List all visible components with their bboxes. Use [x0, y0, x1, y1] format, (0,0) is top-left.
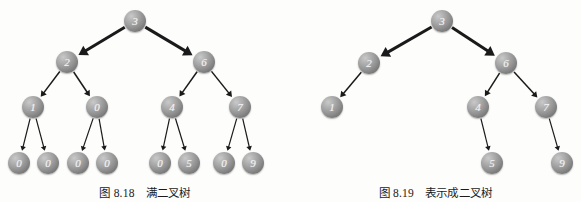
tree-canvas-as-binary-tree: 32614759	[290, 0, 581, 180]
tree-node-label: 9	[250, 157, 256, 169]
tree-node-0[interactable]: 0	[8, 152, 30, 174]
tree-edge	[179, 72, 197, 97]
tree-edge	[41, 72, 60, 97]
figure-full-binary-tree: 326104700000509 图 8.18 满二叉树	[0, 0, 290, 202]
tree-node-label: 0	[94, 101, 100, 113]
tree-edge	[36, 119, 46, 151]
tree-node-label: 4	[169, 101, 175, 113]
tree-node-5[interactable]: 5	[178, 152, 200, 174]
tree-node-label: 2	[366, 57, 372, 69]
tree-edge	[481, 119, 491, 151]
tree-edge	[381, 27, 432, 57]
tree-node-label: 4	[475, 101, 481, 113]
tree-node-0[interactable]: 0	[149, 152, 171, 174]
tree-node-label: 0	[157, 157, 163, 169]
tree-edge	[514, 72, 537, 98]
tree-node-label: 7	[543, 101, 549, 113]
tree-canvas-full-binary-tree: 326104700000509	[0, 0, 290, 180]
tree-edge	[20, 119, 30, 151]
tree-node-1[interactable]: 1	[321, 96, 343, 118]
tree-edge	[78, 27, 124, 55]
figure-caption-8-19: 图 8.19 表示成二叉树	[290, 184, 581, 200]
tree-node-label: 0	[16, 157, 22, 169]
tree-node-4[interactable]: 4	[467, 96, 489, 118]
tree-node-label: 1	[30, 101, 36, 113]
tree-edge	[212, 71, 232, 97]
tree-edge	[340, 72, 361, 97]
tree-node-label: 5	[489, 157, 495, 169]
tree-node-label: 3	[439, 15, 445, 27]
tree-node-label: 0	[104, 157, 110, 169]
tree-edge	[99, 119, 107, 151]
tree-node-3[interactable]: 3	[431, 10, 453, 32]
tree-node-6[interactable]: 6	[495, 52, 517, 74]
tree-edge	[243, 119, 252, 151]
tree-node-label: 1	[329, 101, 335, 113]
tree-node-4[interactable]: 4	[161, 96, 183, 118]
tree-node-1[interactable]: 1	[22, 96, 44, 118]
tree-node-0[interactable]: 0	[37, 152, 59, 174]
tree-node-3[interactable]: 3	[124, 10, 146, 32]
tree-node-label: 3	[132, 15, 138, 27]
tree-node-7[interactable]: 7	[535, 96, 557, 118]
tree-node-label: 9	[559, 157, 565, 169]
tree-node-9[interactable]: 9	[551, 152, 573, 174]
tree-edge	[452, 28, 495, 56]
tree-node-2[interactable]: 2	[358, 52, 380, 74]
tree-node-7[interactable]: 7	[229, 96, 251, 118]
figure-page: 326104700000509 图 8.18 满二叉树 32614759 图 8…	[0, 0, 581, 202]
tree-edge	[74, 72, 90, 96]
tree-node-label: 0	[75, 157, 81, 169]
tree-node-0[interactable]: 0	[213, 152, 235, 174]
tree-node-0[interactable]: 0	[86, 96, 108, 118]
tree-node-label: 2	[64, 56, 70, 68]
figure-caption-8-18: 图 8.18 满二叉树	[0, 184, 290, 200]
tree-edge	[175, 118, 186, 150]
tree-edge	[81, 118, 93, 151]
tree-edge	[485, 73, 500, 96]
tree-node-2[interactable]: 2	[56, 51, 78, 73]
tree-node-label: 6	[503, 57, 509, 69]
tree-node-label: 6	[201, 56, 207, 68]
figure-as-binary-tree: 32614759 图 8.19 表示成二叉树	[290, 0, 581, 202]
tree-node-label: 0	[221, 157, 227, 169]
tree-node-label: 0	[45, 157, 51, 169]
tree-node-6[interactable]: 6	[193, 51, 215, 73]
tree-node-label: 5	[186, 157, 192, 169]
tree-node-0[interactable]: 0	[96, 152, 118, 174]
tree-node-5[interactable]: 5	[481, 152, 503, 174]
tree-node-label: 7	[237, 101, 243, 113]
tree-node-0[interactable]: 0	[67, 152, 89, 174]
tree-edge	[145, 27, 192, 55]
tree-node-9[interactable]: 9	[242, 152, 264, 174]
tree-edge	[549, 119, 560, 151]
tree-edge	[161, 119, 170, 151]
tree-edge	[226, 119, 237, 151]
